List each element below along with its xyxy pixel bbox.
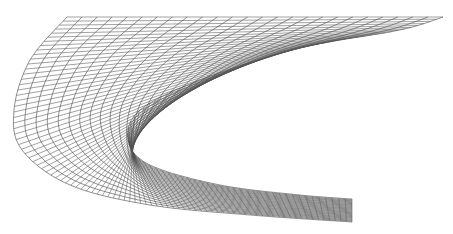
radial-line xyxy=(25,36,365,69)
wrap-line xyxy=(131,17,352,205)
radial-line xyxy=(42,67,237,169)
wrap-line xyxy=(90,17,352,216)
wrap-line xyxy=(80,17,352,217)
radial-line xyxy=(19,55,275,145)
radial-line xyxy=(325,197,329,220)
radial-line xyxy=(332,198,335,221)
radial-line xyxy=(319,197,324,221)
radial-line xyxy=(37,32,392,50)
radial-line xyxy=(31,34,379,59)
radial-line xyxy=(149,165,179,209)
radial-line xyxy=(63,19,437,21)
radial-line xyxy=(138,157,168,207)
radial-line xyxy=(23,37,359,74)
wrap-line xyxy=(128,17,444,199)
radial-line xyxy=(16,41,332,95)
radial-line xyxy=(97,94,168,195)
radial-line xyxy=(71,81,199,186)
c-grid-mesh xyxy=(0,0,453,234)
wrap-line xyxy=(132,17,352,207)
wrap-line xyxy=(130,17,398,202)
wrap-line xyxy=(110,17,352,214)
wrap-line xyxy=(132,17,352,206)
